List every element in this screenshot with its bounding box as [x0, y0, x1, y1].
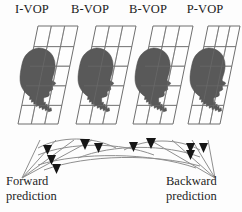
arrowhead [52, 164, 61, 174]
vop-plane-p-vop [188, 26, 240, 124]
arrowhead [199, 143, 208, 153]
arrowhead [94, 143, 103, 153]
forward-prediction-line-2: prediction [6, 189, 57, 204]
backward-prediction-line-2: prediction [166, 189, 217, 204]
vop-plane-b-vop-2 [133, 26, 193, 124]
backward-prediction-label: Backward prediction [166, 174, 217, 203]
forward-prediction-line-1: Forward [6, 174, 48, 188]
vop-prediction-diagram: I-VOP B-VOP B-VOP P-VOP [0, 0, 242, 212]
backward-prediction-line-1: Backward [166, 174, 217, 188]
vop-plane-b-vop-1 [76, 26, 136, 124]
vop-plane-i-vop [18, 26, 78, 130]
forward-prediction-label: Forward prediction [6, 174, 57, 203]
arrowhead [80, 139, 90, 150]
